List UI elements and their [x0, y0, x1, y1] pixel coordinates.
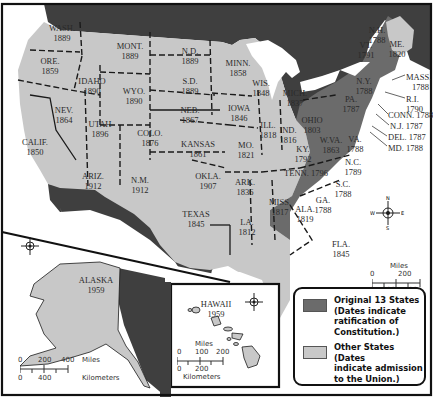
legend-item-other-states: Other States (Dates indicate admission t… — [303, 342, 424, 384]
legend-swatch-other-states — [303, 346, 327, 359]
map-legend: Original 13 States (Dates indicate ratif… — [293, 287, 426, 386]
alaska-compass-icon — [18, 234, 42, 258]
svg-text:W: W — [370, 210, 375, 216]
legend-item-original-13: Original 13 States (Dates indicate ratif… — [303, 295, 419, 337]
compass-rose-icon: N S E W — [370, 195, 406, 231]
svg-text:E: E — [401, 210, 404, 216]
svg-text:S: S — [386, 225, 389, 231]
hawaii-compass-icon — [242, 290, 266, 314]
legend-swatch-original-13 — [303, 299, 327, 312]
hawaii-scale-bar: Miles 0 100 200 0 200 Kilometers — [175, 340, 245, 384]
alaska-scale-bar: 0 200 400 Miles 0 400 Kilometers — [18, 356, 138, 392]
svg-text:N: N — [386, 195, 390, 201]
